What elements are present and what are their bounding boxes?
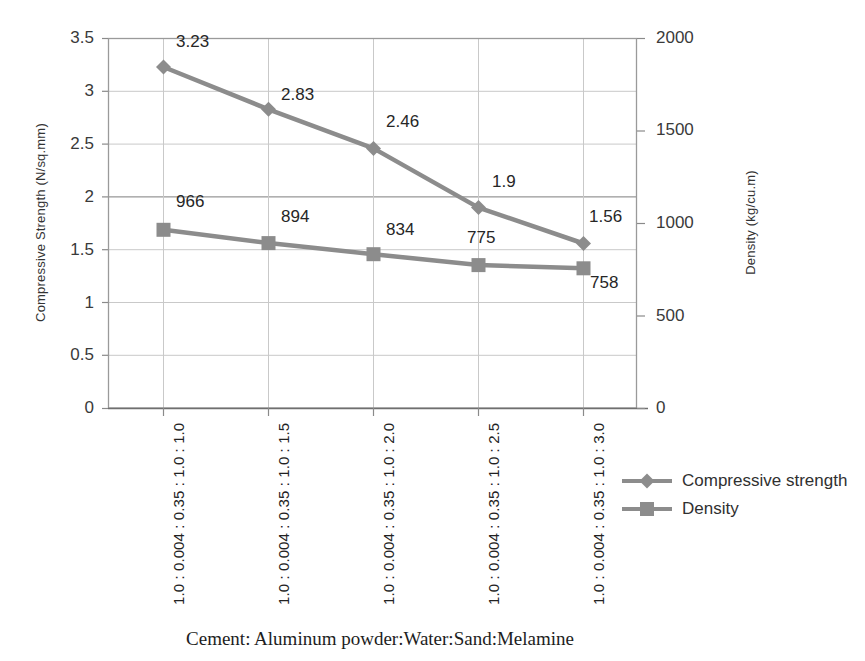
y-right-tick-500: 500	[656, 306, 726, 326]
data-label-strength-5: 1.56	[589, 207, 622, 227]
x-category-label-2: 1.0 : 0.004 : 0.35 : 1.0 : 1.5	[275, 423, 292, 605]
x-category-label-5: 1.0 : 0.004 : 0.35 : 1.0 : 3.0	[590, 423, 607, 605]
diamond-marker	[261, 102, 276, 117]
data-label-density-3: 834	[386, 220, 414, 240]
y-right-tick-2000: 2000	[656, 28, 726, 48]
y-left-tick-1.5: 1.5	[48, 240, 94, 260]
square-marker	[472, 258, 486, 272]
data-label-density-2: 894	[281, 207, 309, 227]
y-left-tick-2: 2	[48, 187, 94, 207]
data-label-density-1: 966	[176, 192, 204, 212]
y-left-tick-3: 3	[48, 81, 94, 101]
y-axis-left-title: Compressive Strength (N/sq.mm)	[33, 73, 48, 373]
data-label-strength-4: 1.9	[492, 172, 516, 192]
chart-plot-area	[0, 0, 865, 661]
y-right-tick-1500: 1500	[656, 120, 726, 140]
data-label-strength-2: 2.83	[281, 85, 314, 105]
y-left-tick-3.5: 3.5	[48, 28, 94, 48]
data-label-density-5: 758	[590, 273, 618, 293]
x-axis-ticks	[164, 408, 584, 416]
y-axis-right-title: Density (kg/cu.m)	[743, 73, 758, 373]
x-category-label-4: 1.0 : 0.004 : 0.35 : 1.0 : 2.5	[485, 423, 502, 605]
data-label-density-4: 775	[467, 228, 495, 248]
plot-border	[109, 39, 637, 409]
y-right-tick-0: 0	[656, 398, 726, 418]
diamond-marker	[640, 474, 655, 489]
y-right-tick-1000: 1000	[656, 213, 726, 233]
legend-item-compressive-strength[interactable]: Compressive strength	[682, 471, 847, 491]
x-category-label-3: 1.0 : 0.004 : 0.35 : 1.0 : 2.0	[380, 423, 397, 605]
square-marker	[577, 261, 591, 275]
left-axis-ticks	[102, 39, 108, 409]
legend-item-density[interactable]: Density	[682, 499, 739, 519]
x-category-label-1: 1.0 : 0.004 : 0.35 : 1.0 : 1.0	[170, 423, 187, 605]
legend-symbols	[622, 474, 672, 517]
square-marker	[367, 247, 381, 261]
y-left-tick-0: 0	[48, 398, 94, 418]
data-label-strength-1: 3.23	[176, 32, 209, 52]
y-left-tick-2.5: 2.5	[48, 134, 94, 154]
y-left-tick-1: 1	[48, 293, 94, 313]
right-axis-ticks	[637, 39, 645, 409]
diamond-marker	[156, 60, 171, 75]
x-axis-title: Cement: Aluminum powder:Water:Sand:Melam…	[0, 628, 760, 650]
diamond-marker	[576, 236, 591, 251]
square-marker	[262, 236, 276, 250]
square-marker	[640, 502, 654, 516]
square-marker	[157, 223, 171, 237]
y-left-tick-0.5: 0.5	[48, 345, 94, 365]
chart-container: 3.5 3 2.5 2 1.5 1 0.5 0 2000 1500 1000 5…	[0, 0, 865, 661]
data-label-strength-3: 2.46	[386, 112, 419, 132]
